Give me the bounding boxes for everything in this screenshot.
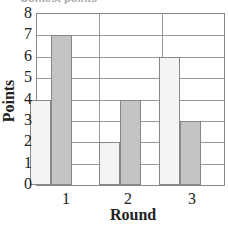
y-tick-label: 3 xyxy=(16,112,32,128)
bar-a-round-2 xyxy=(99,142,120,185)
bar-b-round-2 xyxy=(120,100,141,186)
y-tick-label: 7 xyxy=(16,26,32,42)
bar-a-round-1 xyxy=(30,100,51,186)
y-tick-label: 2 xyxy=(16,133,32,149)
x-tick-label: 1 xyxy=(56,190,76,208)
bar-a-round-3 xyxy=(159,57,180,185)
plot-area xyxy=(36,13,225,186)
y-tick-label: 0 xyxy=(16,176,32,192)
y-tick-label: 8 xyxy=(16,5,32,21)
y-axis-label: Points xyxy=(0,80,18,123)
bar-b-round-1 xyxy=(51,35,72,185)
y-tick-label: 4 xyxy=(16,91,32,107)
y-tick-label: 6 xyxy=(16,48,32,64)
x-axis-label: Round xyxy=(110,206,156,224)
bar-b-round-3 xyxy=(180,121,201,185)
y-tick-label: 5 xyxy=(16,69,32,85)
x-tick-label: 3 xyxy=(182,190,202,208)
y-tick-label: 1 xyxy=(16,155,32,171)
